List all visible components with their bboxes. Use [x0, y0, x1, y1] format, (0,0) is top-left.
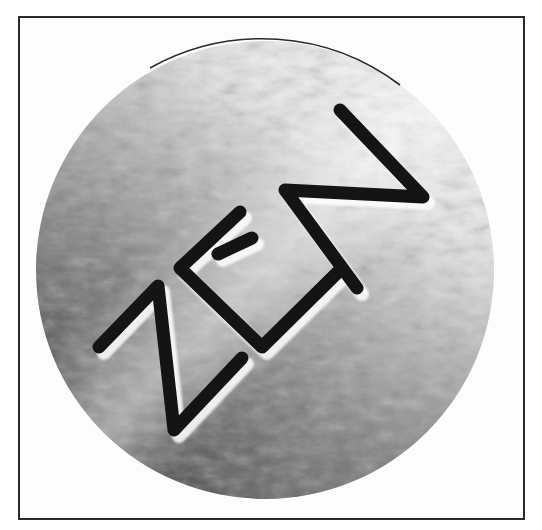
metal-disc — [30, 35, 500, 505]
zen-disc-emblem — [0, 0, 542, 530]
